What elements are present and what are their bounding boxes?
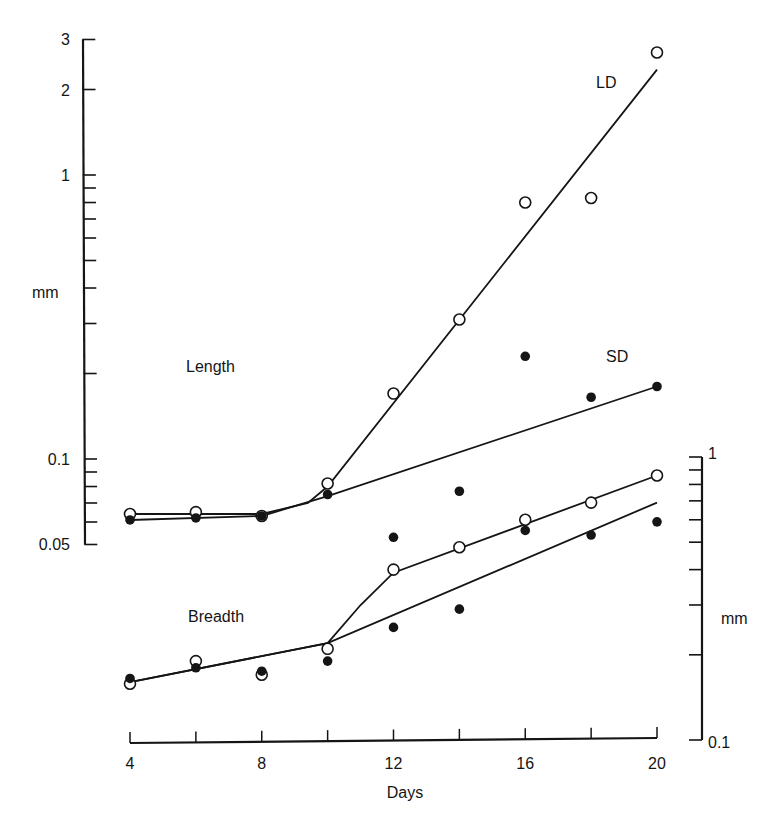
open-circle-marker (652, 47, 663, 58)
open-circle-marker (586, 497, 597, 508)
sd-series-label: SD (606, 348, 628, 365)
open-circle-marker (454, 542, 465, 553)
filled-circle-marker (191, 663, 201, 673)
filled-circle-marker (586, 392, 596, 402)
filled-circle-marker (125, 515, 135, 525)
left-tick-label: 1 (61, 167, 70, 184)
x-tick-label: 20 (648, 755, 666, 772)
breadth-ld-fit-line (130, 476, 657, 683)
breadth-label: Breadth (188, 608, 244, 625)
right-tick-label: 0.1 (708, 734, 730, 751)
filled-circle-marker (323, 656, 333, 666)
length-ld-fit-line (130, 70, 657, 514)
filled-circle-marker (389, 533, 399, 543)
x-tick-label: 12 (385, 755, 403, 772)
filled-circle-marker (520, 526, 530, 536)
annotations: mm mm Days Length Breadth LD SD (32, 74, 748, 801)
length-label: Length (186, 358, 235, 375)
left-tick-label: 2 (61, 82, 70, 99)
growth-chart: 3210.10.05 10.1 48121620 mm mm Days Leng… (0, 0, 776, 826)
left-tick-label: 0.1 (48, 451, 70, 468)
length-sd-fit-line (130, 387, 657, 521)
ld-series-label: LD (596, 74, 616, 91)
open-circle-marker (520, 197, 531, 208)
filled-circle-marker (652, 382, 662, 392)
filled-circle-marker (455, 486, 465, 496)
filled-circle-marker (586, 530, 596, 540)
filled-circle-marker (652, 517, 662, 527)
left-axis-line (83, 39, 85, 544)
open-circle-marker (322, 643, 333, 654)
x-axis: 48121620 (126, 727, 666, 772)
open-circle-marker (652, 470, 663, 481)
open-circle-marker (586, 192, 597, 203)
open-circle-marker (520, 514, 531, 525)
filled-circle-marker (520, 351, 530, 361)
open-circle-marker (388, 564, 399, 575)
filled-circle-marker (257, 666, 267, 676)
right-tick-label: 1 (708, 445, 717, 462)
breadth-sd-fit-line (130, 503, 657, 683)
filled-circle-marker (455, 604, 465, 614)
left-axis-label: mm (32, 284, 59, 301)
x-axis-label: Days (387, 784, 423, 801)
filled-circle-marker (257, 511, 267, 521)
filled-circle-marker (191, 513, 201, 523)
x-tick-label: 16 (516, 755, 534, 772)
fit-lines (130, 70, 657, 683)
x-tick-label: 4 (126, 755, 135, 772)
open-circle-marker (454, 314, 465, 325)
right-axis-label: mm (721, 610, 748, 627)
filled-circle-marker (389, 623, 399, 633)
right-y-axis: 10.1 (689, 445, 730, 751)
open-circle-marker (388, 388, 399, 399)
filled-circle-marker (323, 490, 333, 500)
left-tick-label: 3 (61, 31, 70, 48)
open-circle-marker (322, 478, 333, 489)
filled-circle-marker (125, 674, 135, 684)
left-tick-label: 0.05 (39, 536, 70, 553)
x-tick-label: 8 (257, 755, 266, 772)
